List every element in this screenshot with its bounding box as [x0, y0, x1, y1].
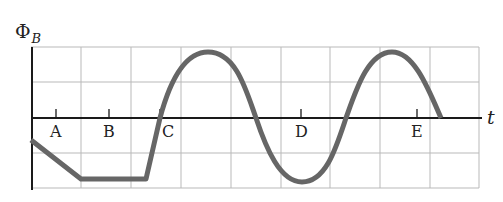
- flux-vs-time-chart: ΦB t A B C D E: [0, 0, 503, 202]
- x-axis-label: t: [487, 106, 495, 128]
- label-E: E: [411, 122, 423, 141]
- label-B: B: [103, 122, 115, 141]
- y-axis-label: ΦB: [15, 20, 41, 46]
- label-C: C: [162, 122, 174, 141]
- ticks: [56, 109, 417, 118]
- label-D: D: [295, 122, 308, 141]
- label-A: A: [49, 122, 62, 141]
